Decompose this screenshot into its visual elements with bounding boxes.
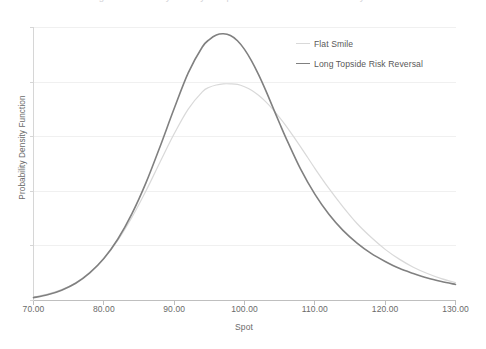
series-lines <box>34 34 456 298</box>
legend-line-swatch-icon <box>296 63 310 64</box>
series-line-1 <box>34 34 456 298</box>
chart-container: Figure: Probability density comparison u… <box>0 0 486 349</box>
x-axis-tick-label: 70.00 <box>11 304 57 314</box>
y-axis-tick-marks <box>30 28 34 301</box>
x-axis-tick-label: 90.00 <box>151 304 197 314</box>
legend-label: Long Topside Risk Reversal <box>314 59 423 69</box>
legend-line-swatch-icon <box>296 43 310 44</box>
x-axis-tick-label: 80.00 <box>81 304 127 314</box>
x-axis-title: Spot <box>33 322 455 332</box>
legend-entry-1[interactable]: Long Topside Risk Reversal <box>296 58 423 69</box>
x-axis-tick-label: 130.00 <box>433 304 479 314</box>
x-axis-tick-label: 110.00 <box>292 304 338 314</box>
legend-label: Flat Smile <box>314 39 353 49</box>
y-axis-title: Probability Density Function <box>18 78 27 218</box>
x-axis-tick-label: 120.00 <box>362 304 408 314</box>
x-axis-tick-label: 100.00 <box>222 304 268 314</box>
chart-legend: Flat SmileLong Topside Risk Reversal <box>296 38 423 69</box>
legend-entry-0[interactable]: Flat Smile <box>296 38 423 49</box>
